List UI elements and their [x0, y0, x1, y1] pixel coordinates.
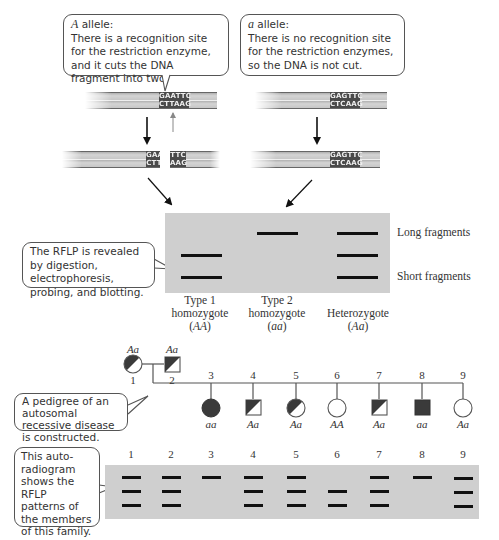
callout-tail — [162, 75, 170, 91]
autoradiogram — [105, 465, 479, 519]
pedigree-female-unaffected-icon — [454, 399, 472, 417]
band-lane2-middle — [162, 490, 181, 493]
label-line: homozygote — [237, 307, 317, 320]
pedigree-male-affected-icon — [415, 400, 430, 415]
genotype-child-8: aa — [410, 418, 434, 430]
band-lane1-short — [122, 504, 141, 507]
band-lane4-middle — [244, 490, 263, 493]
pedigree-female-unaffected-icon — [328, 399, 346, 417]
id-parent-1: 1 — [123, 374, 143, 386]
lane-label-1: 1 — [121, 448, 141, 460]
label-line: homozygote — [160, 307, 240, 320]
label-line: Type 1 — [160, 294, 240, 307]
band-lane8-long — [413, 476, 432, 479]
id-child-3: 3 — [201, 369, 221, 381]
id-child-6: 6 — [327, 369, 347, 381]
id-child-5: 5 — [286, 369, 306, 381]
callout-autoradiogram: This auto-radiogram shows the RFLP patte… — [14, 447, 100, 527]
pedigree-male-carrier-icon — [246, 400, 261, 415]
genotype-child-4: Aa — [241, 418, 265, 430]
callout-body: The RFLP is revealed by digestion, elect… — [30, 245, 147, 299]
genotype-label: AA — [193, 320, 207, 332]
id-parent-2: 2 — [162, 374, 182, 386]
id-child-4: 4 — [243, 369, 263, 381]
band-het-middle — [337, 254, 378, 257]
band-lane7-short — [370, 504, 389, 507]
label-short-fragments: Short fragments — [397, 270, 471, 282]
callout-body: This auto-radiogram shows the RFLP patte… — [21, 450, 93, 538]
band-lane5-middle — [287, 490, 306, 493]
callout-tail — [128, 396, 148, 414]
band-lane7-middle — [370, 490, 389, 493]
lane-label-3: 3 — [201, 448, 221, 460]
label-line: Type 2 — [237, 294, 317, 307]
genotype-child-6: AA — [325, 418, 349, 430]
id-child-9: 9 — [453, 369, 473, 381]
callout-rflp: The RFLP is revealed by digestion, elect… — [22, 242, 155, 288]
band-lane4-long — [244, 476, 263, 479]
band-lane3-long — [202, 476, 221, 479]
gel-electrophoresis — [165, 213, 390, 293]
band-lane1-long — [122, 476, 141, 479]
arrow-diagonal-icon — [148, 178, 171, 204]
pedigree-male-carrier-icon — [165, 357, 180, 372]
lane-label-2: 2 — [161, 448, 181, 460]
band-lane9-short — [454, 505, 473, 508]
genotype-label: Aa — [352, 320, 365, 332]
gel-col-het-label: Heterozygote (Aa) — [317, 307, 399, 333]
genotype-child-9: Aa — [451, 418, 475, 430]
band-lane2-short — [162, 504, 181, 507]
lane-label-4: 4 — [243, 448, 263, 460]
genotype-parent-1: Aa — [121, 343, 145, 355]
lane-label-8: 8 — [412, 448, 432, 460]
gel-col-type1-label: Type 1 homozygote (AA) — [160, 294, 240, 333]
band-lane9-long — [454, 477, 473, 480]
band-lane2-long — [162, 476, 181, 479]
band-type2-long — [257, 232, 298, 235]
lane-label-5: 5 — [286, 448, 306, 460]
band-lane6-short — [328, 504, 347, 507]
id-child-8: 8 — [412, 369, 432, 381]
gel-col-type2-label: Type 2 homozygote (aa) — [237, 294, 317, 333]
child-drop-lines — [211, 383, 463, 399]
genotype-child-3: aa — [199, 418, 223, 430]
band-lane5-short — [287, 504, 306, 507]
genotype-child-7: Aa — [367, 418, 391, 430]
label-long-fragments: Long fragments — [397, 226, 470, 238]
lane-label-9: 9 — [453, 448, 473, 460]
genotype-parent-2: Aa — [160, 343, 184, 355]
band-het-long — [337, 232, 378, 235]
band-lane1-middle — [122, 490, 141, 493]
pedigree-female-affected-icon — [202, 399, 220, 417]
band-type1-short — [181, 276, 222, 279]
pedigree-male-carrier-icon — [372, 400, 387, 415]
arrow-diagonal-icon — [287, 180, 312, 206]
band-lane9-middle — [454, 491, 473, 494]
callout-body: A pedigree of an autosomal recessive dis… — [22, 395, 120, 443]
id-child-7: 7 — [369, 369, 389, 381]
band-lane4-short — [244, 504, 263, 507]
callout-pedigree: A pedigree of an autosomal recessive dis… — [14, 393, 128, 431]
genotype-label: aa — [271, 320, 283, 332]
band-het-short — [337, 276, 378, 279]
band-type1-middle — [181, 254, 222, 257]
label-line: Heterozygote — [317, 307, 399, 320]
band-lane5-long — [287, 476, 306, 479]
genotype-child-5: Aa — [284, 418, 308, 430]
lane-label-6: 6 — [327, 448, 347, 460]
band-lane6-middle — [328, 490, 347, 493]
band-lane7-long — [370, 476, 389, 479]
lane-label-7: 7 — [369, 448, 389, 460]
